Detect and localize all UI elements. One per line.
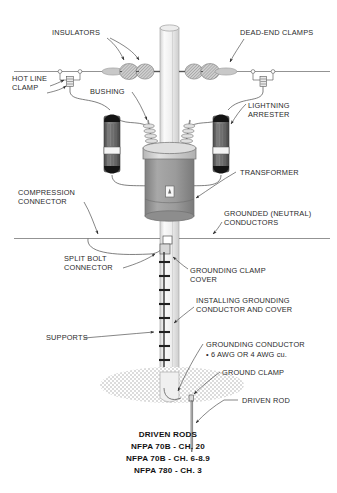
svg-text:INSTALLING GROUNDING: INSTALLING GROUNDING bbox=[196, 296, 290, 305]
grounding-clamp-cover bbox=[160, 244, 170, 254]
pole-buried-section bbox=[160, 372, 179, 402]
svg-text:DEAD-END CLAMPS: DEAD-END CLAMPS bbox=[240, 28, 313, 37]
svg-text:ARRESTER: ARRESTER bbox=[248, 110, 289, 119]
svg-text:CONDUCTOR AND COVER: CONDUCTOR AND COVER bbox=[196, 305, 292, 314]
svg-text:LIGHTNING: LIGHTNING bbox=[248, 101, 290, 110]
svg-text:DRIVEN ROD: DRIVEN ROD bbox=[242, 396, 290, 405]
svg-text:CONDUCTORS: CONDUCTORS bbox=[224, 218, 278, 227]
svg-text:SPLIT BOLT: SPLIT BOLT bbox=[64, 254, 107, 263]
transformer bbox=[143, 142, 196, 221]
svg-text:COVER: COVER bbox=[190, 275, 217, 284]
svg-text:HOT LINE: HOT LINE bbox=[12, 74, 47, 83]
caption-line-1: DRIVEN RODS bbox=[139, 430, 198, 439]
svg-text:• 6 AWG OR 4 AWG cu.: • 6 AWG OR 4 AWG cu. bbox=[206, 350, 287, 359]
caption-line-2: NFPA 70B - CH. 20 bbox=[131, 442, 205, 451]
svg-text:GROUND CLAMP: GROUND CLAMP bbox=[222, 368, 284, 377]
svg-text:SUPPORTS: SUPPORTS bbox=[46, 333, 88, 342]
svg-text:GROUNDING CLAMP: GROUNDING CLAMP bbox=[190, 266, 266, 275]
svg-text:COMPRESSION: COMPRESSION bbox=[18, 188, 75, 197]
svg-text:TRANSFORMER: TRANSFORMER bbox=[240, 168, 299, 177]
svg-text:CONNECTOR: CONNECTOR bbox=[64, 263, 113, 272]
ground-clamp-body bbox=[189, 395, 194, 401]
utility-pole-grounding-diagram: INSULATORS DEAD-END CLAMPS HOT LINE CLAM… bbox=[0, 0, 337, 493]
svg-text:INSULATORS: INSULATORS bbox=[52, 28, 100, 37]
svg-text:GROUNDED (NEUTRAL): GROUNDED (NEUTRAL) bbox=[224, 209, 311, 218]
caption-line-4: NFPA 780 - CH. 3 bbox=[134, 466, 202, 475]
svg-text:BUSHING: BUSHING bbox=[90, 87, 125, 96]
svg-text:CONNECTOR: CONNECTOR bbox=[18, 197, 67, 206]
svg-text:GROUNDING CONDUCTOR: GROUNDING CONDUCTOR bbox=[206, 340, 305, 349]
svg-text:CLAMP: CLAMP bbox=[12, 83, 38, 92]
caption-line-3: NFPA 70B - CH. 6-8.9 bbox=[126, 454, 210, 463]
compression-connector-block bbox=[163, 236, 172, 244]
